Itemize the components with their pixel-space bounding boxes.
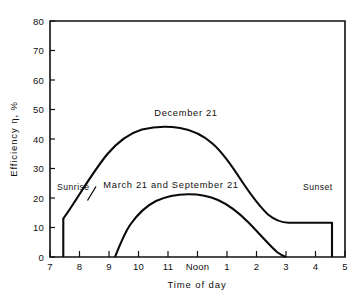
- solar-efficiency-chart: 80 70 60 50 40 30 20 10 0 7 8 9 10 11 No…: [0, 0, 359, 298]
- annotation-sunrise: Sunrise: [57, 182, 90, 192]
- y-tick-label: 50: [33, 104, 44, 115]
- plot-frame: [50, 21, 345, 257]
- y-tick-label: 40: [33, 134, 44, 145]
- y-tick-label: 80: [33, 16, 44, 27]
- x-tick-label: 11: [163, 261, 173, 272]
- x-tick-label: 3: [283, 261, 288, 272]
- x-tick-label: Noon: [186, 261, 210, 272]
- x-tick-label: 5: [342, 261, 347, 272]
- x-tick-label: 8: [77, 261, 82, 272]
- x-tick-label: 7: [47, 261, 52, 272]
- series-curve-march-september-21: [115, 194, 286, 257]
- y-tick-label: 10: [33, 222, 44, 233]
- annotation-sunset: Sunset: [303, 182, 333, 192]
- x-tick-label: 2: [254, 261, 259, 272]
- y-tick-label: 0: [39, 252, 44, 263]
- x-tick-label: 4: [313, 261, 318, 272]
- y-tick-labels: 80 70 60 50 40 30 20 10 0: [33, 16, 44, 263]
- y-tick-label: 60: [33, 75, 44, 86]
- annotation-december-21: December 21: [154, 108, 218, 118]
- y-axis-title: Efficiency η, %: [8, 101, 19, 177]
- series-curve-december-21: [63, 127, 332, 257]
- x-tick-label: 9: [106, 261, 111, 272]
- x-tick-labels: 7 8 9 10 11 Noon 1 2 3 4 5: [47, 261, 347, 272]
- y-tick-label: 20: [33, 193, 44, 204]
- y-tick-label: 30: [33, 163, 44, 174]
- x-axis-ticks: [50, 251, 345, 257]
- annotation-march-september-21: March 21 and September 21: [103, 180, 238, 190]
- chart-figure: 80 70 60 50 40 30 20 10 0 7 8 9 10 11 No…: [0, 0, 359, 298]
- x-axis-title: Time of day: [167, 279, 226, 290]
- x-tick-label: 1: [224, 261, 229, 272]
- y-tick-label: 70: [33, 45, 44, 56]
- x-tick-label: 10: [133, 261, 144, 272]
